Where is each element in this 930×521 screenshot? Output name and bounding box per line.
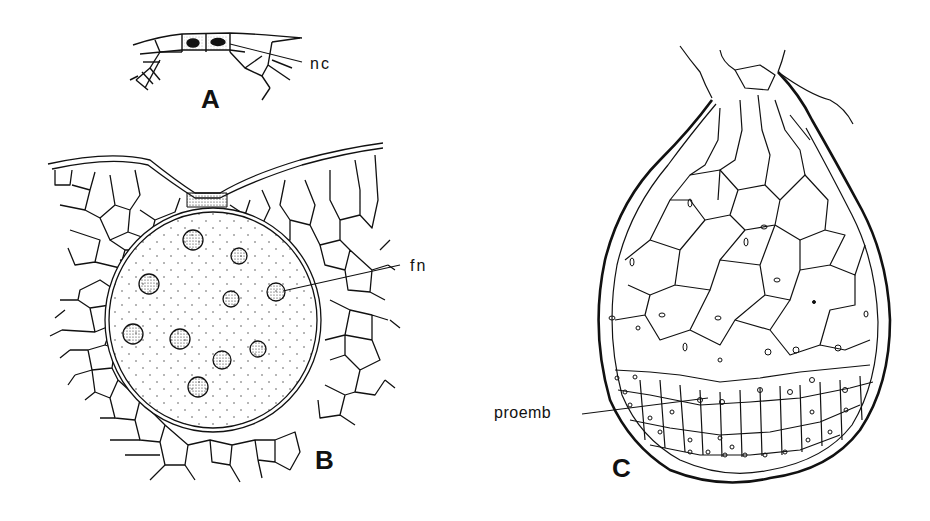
- annotation-nc: nc: [310, 56, 331, 72]
- panel-label-c: C: [612, 455, 631, 481]
- annotation-proemb: proemb: [494, 405, 551, 421]
- panel-b-drawing: [48, 143, 400, 482]
- figure-drawing: [0, 0, 930, 521]
- annotation-fn: fn: [410, 258, 427, 274]
- botanical-figure: nc A fn B proemb C: [0, 0, 930, 521]
- panel-label-a: A: [201, 86, 220, 112]
- panel-label-b: B: [315, 447, 334, 473]
- panel-c-drawing: [582, 46, 890, 483]
